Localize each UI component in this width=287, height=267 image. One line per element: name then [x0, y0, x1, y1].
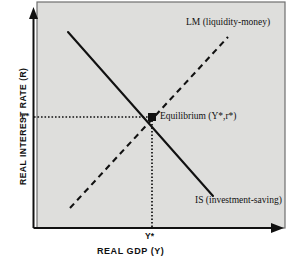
lm-curve-label: LM (liquidity-money) [186, 18, 270, 28]
x-axis-tick-label-y-star: Y* [145, 232, 154, 241]
chart-canvas [0, 0, 287, 267]
is-lm-chart-figure: LM (liquidity-money) IS (investment-savi… [0, 0, 287, 267]
equilibrium-marker [148, 113, 156, 121]
x-axis-title: REAL GDP (Y) [97, 247, 164, 256]
equilibrium-label: Equilibrium (Y*,r*) [160, 112, 237, 122]
is-curve-label: IS (investment-saving) [195, 196, 282, 206]
y-axis-title: REAL INTEREST RATE (R) [19, 51, 28, 201]
